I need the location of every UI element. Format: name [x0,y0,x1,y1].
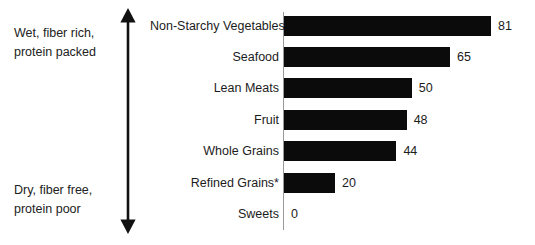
bar-row: Whole Grains44 [150,136,530,167]
bar [284,47,450,67]
bar [284,110,407,130]
bar-value-label: 48 [414,113,428,127]
bar-row: Seafood65 [150,41,530,72]
category-label: Seafood [150,50,279,64]
bar-value-label: 50 [419,81,433,95]
bar [284,141,396,161]
category-label: Lean Meats [150,81,279,95]
bar-value-label: 20 [342,176,356,190]
annotation-top-text: Wet, fiber rich, protein packed [14,24,118,62]
bar-row: Sweets0 [150,198,530,229]
bar [284,16,491,36]
double-headed-vertical-arrow-icon [112,8,144,234]
bar-row: Non-Starchy Vegetables81 [150,10,530,41]
bar-value-label: 0 [291,207,298,221]
bar-chart-figure: Wet, fiber rich, protein packed Dry, fib… [0,0,535,245]
category-label: Fruit [150,113,279,127]
category-label: Whole Grains [150,144,279,158]
bar [284,78,412,98]
bar-value-label: 81 [498,19,512,33]
bar-row: Refined Grains*20 [150,167,530,198]
category-label: Refined Grains* [150,176,279,190]
bar [284,173,335,193]
bar-row: Lean Meats50 [150,73,530,104]
plot-area: Non-Starchy Vegetables81Seafood65Lean Me… [150,10,530,232]
bar-value-label: 44 [403,144,417,158]
category-label: Non-Starchy Vegetables [150,19,279,33]
bar-value-label: 65 [457,50,471,64]
category-label: Sweets [150,207,279,221]
annotation-bottom-text: Dry, fiber free, protein poor [14,181,118,219]
bar-row: Fruit48 [150,104,530,135]
